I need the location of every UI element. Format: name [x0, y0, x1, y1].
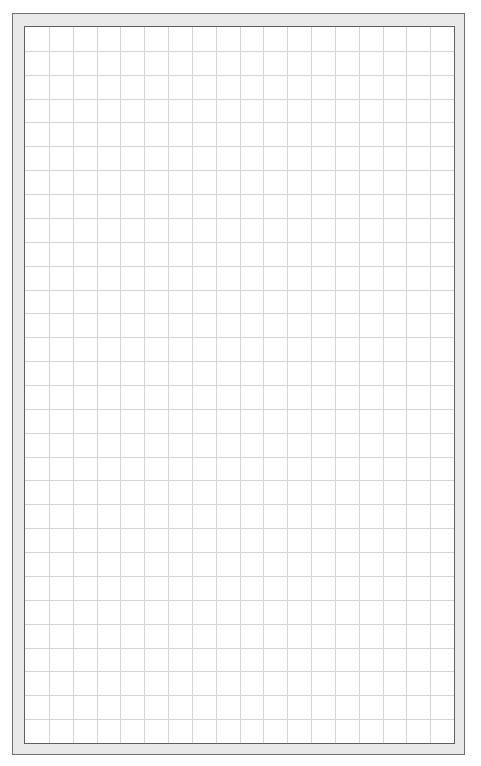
- grid-lines: [25, 27, 454, 743]
- grid-paper-page: [0, 0, 481, 766]
- grid-sheet: [24, 26, 455, 744]
